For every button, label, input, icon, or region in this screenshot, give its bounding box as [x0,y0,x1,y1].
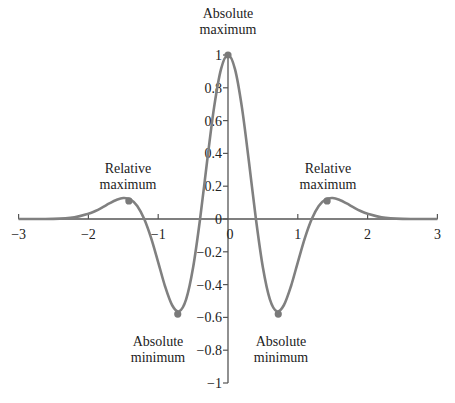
rel-max-right-point [324,197,331,204]
abs-min-left-label: minimum [131,350,186,365]
y-tick-label: −0.2 [197,245,222,260]
x-tick-label: −3 [11,227,26,242]
y-tick-label: 0 [215,212,222,227]
abs-max-label: maximum [200,22,257,37]
x-tick-label: 0 [227,227,234,242]
x-tick-label: −2 [81,227,96,242]
abs-min-right-label: Absolute [256,334,307,349]
abs-min-left-point [174,311,181,318]
abs-max-label: Absolute [203,6,254,21]
abs-min-left-label: Absolute [133,334,184,349]
rel-max-left-point [125,197,132,204]
y-tick-label: 0.2 [205,179,223,194]
axes: −3−2−1012310.80.60.40.20−0.2−0.4−0.6−0.8… [11,48,441,391]
y-tick-label: 1 [215,48,222,63]
x-tick-label: 2 [364,227,371,242]
abs-min-right-point [275,311,282,318]
y-tick-label: −0.8 [197,343,222,358]
y-tick-label: −0.6 [197,310,222,325]
y-tick-label: −1 [207,376,222,391]
rel-max-right-label: Relative [305,161,352,176]
abs-max-point [224,51,231,58]
rel-max-left-label: maximum [100,177,157,192]
rel-max-right-label: maximum [300,177,357,192]
function-chart: −3−2−1012310.80.60.40.20−0.2−0.4−0.6−0.8… [0,0,455,403]
abs-min-right-label: minimum [254,350,309,365]
x-tick-label: 1 [294,227,301,242]
rel-max-left-label: Relative [105,161,152,176]
x-tick-label: 3 [434,227,441,242]
y-tick-label: −0.4 [197,278,222,293]
